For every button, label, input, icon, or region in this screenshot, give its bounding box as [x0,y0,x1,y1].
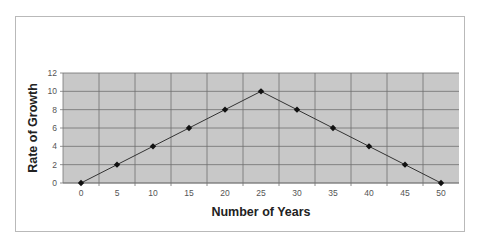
x-axis-ticks: 05101520253035404550 [79,188,446,198]
x-tick-label: 15 [184,188,194,198]
line-chart: 024681012 05101520253035404550 Number of… [0,0,481,246]
x-tick-label: 0 [79,188,84,198]
x-tick-label: 20 [220,188,230,198]
x-tick-label: 5 [115,188,120,198]
y-tick-label: 0 [52,178,57,188]
y-tick-label: 6 [52,123,57,133]
y-tick-label: 4 [52,141,57,151]
y-axis-title: Rate of Growth [26,83,40,173]
x-tick-label: 10 [148,188,158,198]
x-tick-label: 30 [292,188,302,198]
x-axis-title: Number of Years [211,205,310,219]
x-tick-label: 25 [256,188,266,198]
y-tick-label: 12 [48,68,58,78]
x-tick-label: 45 [400,188,410,198]
x-tick-label: 40 [364,188,374,198]
y-tick-label: 10 [48,86,58,96]
y-axis-ticks: 024681012 [48,68,63,188]
y-tick-label: 8 [52,105,57,115]
x-tick-label: 35 [328,188,338,198]
x-tick-label: 50 [436,188,446,198]
y-tick-label: 2 [52,160,57,170]
